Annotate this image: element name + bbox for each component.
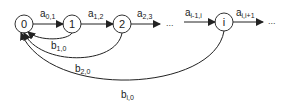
node-0-label: 0 bbox=[15, 15, 33, 33]
edge-label-sub: 1,2 bbox=[94, 13, 104, 20]
edge-label-sub: 2,3 bbox=[143, 13, 153, 20]
edge-label-b-1-0: b1,0 bbox=[51, 41, 66, 52]
edge-label-a-2-3: a2,3 bbox=[137, 9, 152, 20]
node-1-label: 1 bbox=[63, 15, 81, 33]
ellipsis-middle: ... bbox=[166, 19, 174, 28]
edge-label-a-i-ip1: ai,i+1 bbox=[236, 8, 255, 19]
node-2-label: 2 bbox=[113, 15, 131, 33]
edge-label-sub: i,i+1 bbox=[242, 12, 255, 19]
node-i-label: i bbox=[215, 13, 233, 31]
edge-label-sub: 1,0 bbox=[57, 45, 67, 52]
edge-label-a-1-2: a1,2 bbox=[88, 9, 103, 20]
edge-label-sub: i-1,i bbox=[191, 12, 202, 19]
edge-label-a-0-1: a0,1 bbox=[40, 9, 55, 20]
edge-label-sub: i,0 bbox=[127, 94, 134, 101]
ellipsis-end: ... bbox=[268, 17, 276, 26]
edge-b-i-0 bbox=[21, 31, 224, 80]
edge-label-b-2-0: b2,0 bbox=[75, 64, 90, 75]
edge-label-sub: 2,0 bbox=[81, 68, 91, 75]
edge-b-1-0 bbox=[28, 32, 72, 39]
edge-b-2-0 bbox=[24, 33, 122, 58]
edge-label-b-i-0: bi,0 bbox=[121, 90, 134, 101]
edge-label-sub: 0,1 bbox=[46, 13, 56, 20]
edge-label-a-im1-i: ai-1,i bbox=[185, 8, 202, 19]
